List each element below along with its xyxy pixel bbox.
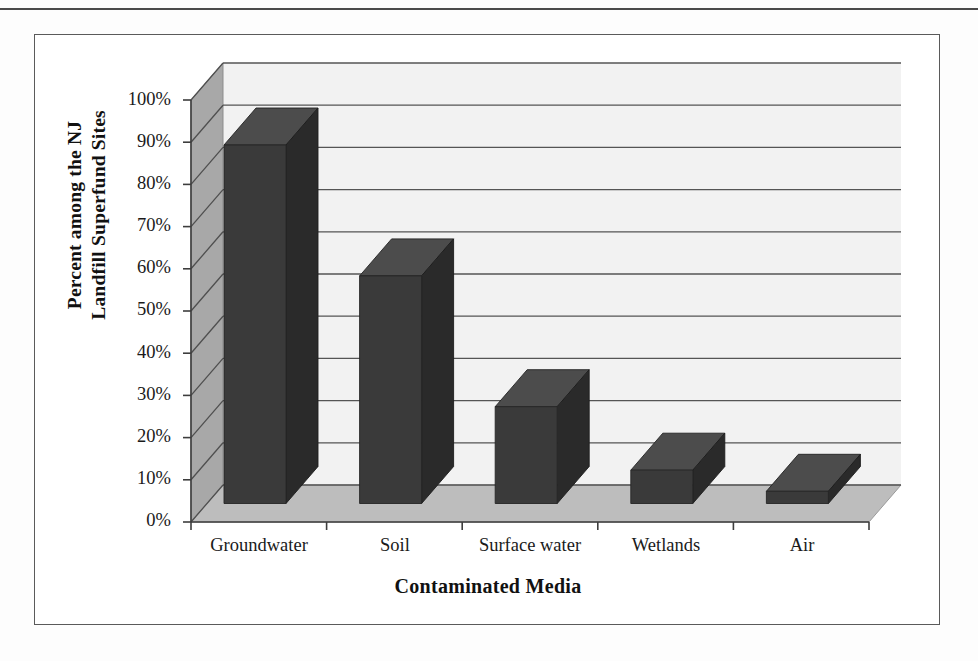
bar-groundwater[interactable] [224, 108, 318, 504]
xtick-label-soil: Soil [325, 535, 465, 556]
y-axis-title-line1: Percent among the NJ [63, 121, 87, 309]
page-top-rule [0, 8, 978, 10]
bar-surface-water-front [495, 407, 557, 504]
y-axis-ticks [183, 100, 191, 522]
bar-air-front [766, 491, 828, 503]
ytick-label-0: 0% [105, 510, 171, 531]
ytick-label-10: 10% [105, 468, 171, 489]
bar-groundwater-side [286, 108, 318, 504]
xtick-label-wetlands: Wetlands [596, 535, 736, 556]
ytick-label-20: 20% [105, 426, 171, 447]
bar-wetlands-front [631, 470, 693, 503]
bar-soil-front [360, 276, 422, 504]
chart-frame: 100% 90% 80% 70% 60% 50% 40% 30% 20% 10%… [34, 34, 940, 625]
bar-groundwater-front [224, 145, 286, 504]
xtick-label-groundwater: Groundwater [189, 535, 329, 556]
x-axis-ticks [191, 522, 869, 530]
page-canvas: 100% 90% 80% 70% 60% 50% 40% 30% 20% 10%… [0, 0, 978, 661]
ytick-label-30: 30% [105, 384, 171, 405]
bar-soil-side [422, 239, 454, 504]
bar-soil[interactable] [360, 239, 454, 504]
y-axis-title-line2: Landfill Superfund Sites [87, 110, 111, 320]
xtick-label-air: Air [732, 535, 872, 556]
x-axis-title: Contaminated Media [35, 575, 941, 598]
y-axis-title: Percent among the NJ Landfill Superfund … [57, 55, 117, 375]
bar-surface-water[interactable] [495, 370, 589, 504]
xtick-label-surface-water: Surface water [460, 535, 600, 556]
